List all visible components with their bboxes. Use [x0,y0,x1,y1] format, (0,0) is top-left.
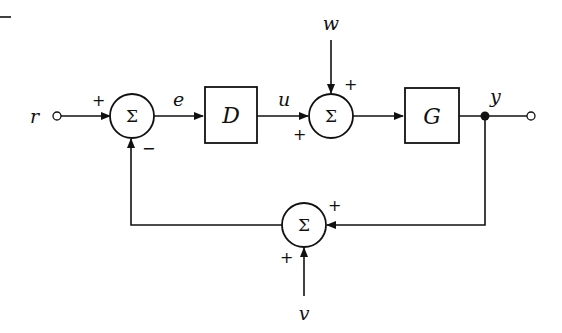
sensor-noise-label: v [299,302,310,324]
sum1-minus-sign: − [142,139,155,158]
controller-label: D [221,103,240,128]
reference-terminal [53,112,61,120]
reference-label: r [30,105,41,127]
plant-block: G [405,88,459,143]
sum3-right-plus-sign: + [328,196,341,215]
controller-block: D [205,87,257,143]
plant-label: G [423,104,441,129]
sigma-symbol: Σ [298,215,310,235]
sum1-plus-sign: + [92,91,105,110]
summing-junction-1: Σ [110,94,154,138]
output-terminal [527,112,535,120]
sigma-symbol: Σ [325,106,337,126]
disturbance-label: w [323,12,339,34]
sum2-left-plus-sign: + [293,125,306,144]
error-signal-label: e [173,88,184,110]
output-signal-label: y [489,85,501,107]
sum3-bottom-plus-sign: + [280,248,293,267]
sum2-top-plus-sign: + [344,75,357,94]
block-diagram: r + Σ − e D u + w + Σ G y + Σ [0,0,562,333]
sigma-symbol: Σ [126,106,138,126]
summing-junction-3: Σ [282,203,326,247]
control-signal-label: u [278,88,290,110]
summing-junction-2: Σ [309,94,353,138]
